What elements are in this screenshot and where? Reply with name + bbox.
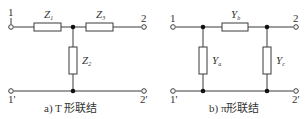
junction-node	[71, 89, 76, 94]
terminal-2	[294, 25, 299, 30]
admittance-ya-resistor	[199, 47, 207, 74]
label-z3: Z3	[96, 8, 105, 21]
terminal-2	[142, 25, 147, 30]
terminal-label-2-prime: 2'	[292, 93, 300, 105]
admittance-yc-resistor	[263, 47, 271, 74]
impedance-z2-resistor	[69, 47, 77, 74]
label-ya: Ya	[212, 54, 221, 67]
two-port-network-diagrams: 2 1' 2' Z1 Z3 Z2 a) T 形联结	[0, 0, 306, 119]
caption-pi-network: b) π形联结	[209, 102, 259, 115]
junction-node	[265, 89, 270, 94]
label-z2: Z2	[82, 54, 91, 67]
terminal-label-2: 2	[141, 12, 147, 24]
caption-t-network: a) T 形联结	[44, 102, 97, 115]
t-network-diagram: 2 1' 2' Z1 Z3 Z2 a) T 形联结	[8, 8, 148, 115]
label-yc: Yc	[276, 54, 285, 67]
terminal-label-2: 2	[293, 12, 299, 24]
admittance-yb-resistor	[222, 23, 248, 31]
terminal-label-1-prime: 1'	[8, 93, 16, 105]
label-yb: Yb	[231, 8, 240, 21]
terminal-label-1: 1	[8, 6, 14, 18]
junction-node	[201, 89, 206, 94]
label-z1: Z1	[44, 8, 53, 21]
terminal-label-1: 1	[170, 12, 176, 24]
junction-node	[201, 25, 206, 30]
terminal-1	[171, 25, 176, 30]
junction-node	[71, 25, 76, 30]
junction-node	[265, 25, 270, 30]
terminal-label-2-prime: 2'	[140, 93, 148, 105]
impedance-z1-resistor	[34, 23, 61, 31]
impedance-z3-resistor	[86, 23, 113, 31]
terminal-1	[9, 25, 14, 30]
pi-network-diagram: 1 2 1' 2' Yb Ya Yc b) π形联结	[170, 8, 300, 115]
terminal-label-1-prime: 1'	[170, 93, 178, 105]
